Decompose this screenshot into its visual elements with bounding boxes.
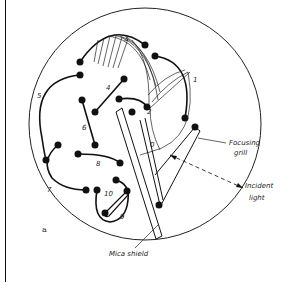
label-9: 9 bbox=[120, 213, 125, 221]
pin bbox=[92, 109, 99, 116]
photomultiplier-diagram: 0 1 2 3 4 5 6 7 8 9 10 Focusing grill In… bbox=[0, 0, 281, 282]
electron-paths bbox=[94, 35, 190, 155]
grill-strip bbox=[140, 118, 163, 205]
dynode-1 bbox=[155, 56, 187, 118]
pin bbox=[92, 142, 99, 149]
pin bbox=[152, 53, 159, 60]
mica-shield-leader bbox=[135, 225, 158, 248]
pin bbox=[83, 187, 90, 194]
focusing-label: Focusing bbox=[229, 139, 261, 147]
pin bbox=[117, 160, 124, 167]
label-10: 10 bbox=[104, 190, 113, 198]
pin bbox=[113, 177, 120, 184]
focusing-grill-leader bbox=[198, 138, 226, 143]
label-3: 3 bbox=[124, 35, 128, 43]
label-4: 4 bbox=[106, 84, 110, 92]
grill-label: grill bbox=[234, 149, 247, 157]
pin bbox=[94, 187, 101, 194]
label-8: 8 bbox=[96, 160, 101, 168]
label-6: 6 bbox=[82, 124, 87, 132]
pin bbox=[55, 142, 62, 149]
panel-label: a bbox=[42, 225, 47, 234]
pin bbox=[121, 76, 128, 83]
label-1: 1 bbox=[193, 76, 197, 84]
label-5: 5 bbox=[37, 92, 42, 100]
incident-label: Incident bbox=[245, 182, 273, 190]
label-0: 0 bbox=[150, 141, 155, 149]
pin bbox=[116, 96, 123, 103]
pin bbox=[77, 72, 84, 79]
arrowhead-icon bbox=[236, 183, 243, 188]
pin bbox=[142, 42, 149, 49]
light-label: light bbox=[249, 194, 265, 202]
mica-shield-label: Mica shield bbox=[109, 250, 149, 258]
label-2: 2 bbox=[147, 108, 152, 116]
dynode-6 bbox=[82, 100, 95, 145]
incident-light-arrow bbox=[170, 155, 243, 188]
label-7: 7 bbox=[47, 186, 52, 194]
pin bbox=[129, 109, 136, 116]
pin bbox=[77, 59, 84, 66]
pin bbox=[79, 97, 86, 104]
pin bbox=[43, 157, 50, 164]
dynode-2 bbox=[119, 98, 147, 107]
arrowhead-icon bbox=[170, 155, 177, 160]
pin bbox=[75, 151, 82, 158]
